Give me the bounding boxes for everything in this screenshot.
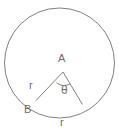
- radius-segment-ab: [36, 72, 63, 101]
- vertex-label-b: B: [24, 104, 31, 115]
- angle-label-theta: θ: [61, 84, 68, 96]
- radius-label-arc: r: [60, 117, 64, 128]
- vertex-label-a: A: [58, 53, 65, 64]
- circle-sector-figure: [0, 0, 119, 134]
- radius-label-left: r: [29, 80, 33, 91]
- geometry-diagram: A r θ B r: [0, 0, 119, 134]
